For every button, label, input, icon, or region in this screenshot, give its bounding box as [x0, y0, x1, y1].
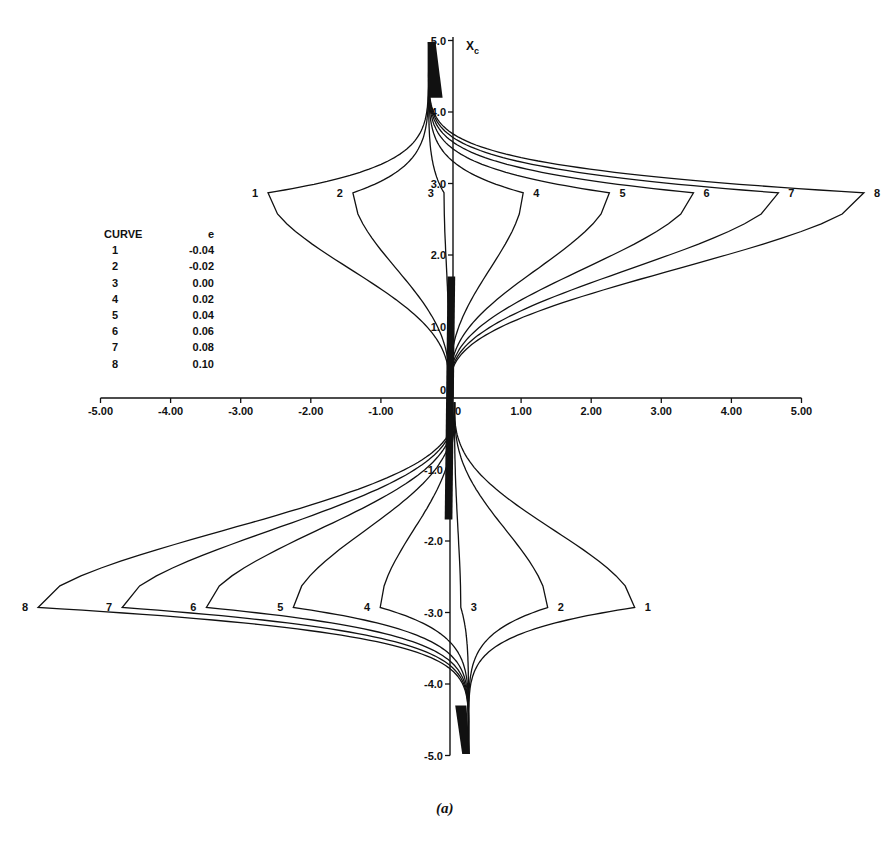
curve-label: 3	[471, 601, 477, 613]
x-tick-label: -2.00	[298, 405, 323, 417]
curve-label: 1	[645, 601, 651, 613]
legend-row: 50.04	[104, 307, 214, 323]
x-tick-label: -5.00	[88, 405, 113, 417]
legend-header-curve: CURVE	[104, 226, 176, 242]
legend-row: 80.10	[104, 356, 214, 372]
y-tick-label: -5.0	[424, 750, 443, 762]
curve-label: 5	[619, 187, 625, 199]
x-tick-label: 3.00	[651, 405, 672, 417]
curve-label: 6	[190, 601, 196, 613]
curve-label: 4	[533, 187, 540, 199]
curve-label: 4	[364, 601, 371, 613]
y-axis-title: Xc	[466, 39, 479, 56]
curve-5-upper	[429, 42, 610, 394]
x-tick-label: -4.00	[158, 405, 183, 417]
curve-6-upper	[429, 42, 694, 394]
curve-label: 5	[277, 601, 283, 613]
legend-header: CURVE e	[104, 226, 214, 242]
x-tick-label: 0	[455, 405, 461, 417]
x-tick-label: -3.00	[228, 405, 253, 417]
curve-8-upper	[429, 42, 864, 394]
curve-label: 7	[106, 601, 112, 613]
legend-row: 40.02	[104, 291, 214, 307]
curve-1-lower	[455, 402, 635, 754]
y-tick-label: 0	[440, 384, 446, 396]
curve-label: 1	[252, 187, 258, 199]
x-tick-label: 2.00	[580, 405, 601, 417]
legend-row: 60.06	[104, 323, 214, 339]
curve-7-lower	[122, 402, 468, 754]
y-tick-label: -2.0	[424, 535, 443, 547]
curve-5-lower	[293, 402, 468, 754]
curve-3-lower	[455, 402, 469, 754]
x-tick-label: 4.00	[721, 405, 742, 417]
y-tick-label: -4.0	[424, 678, 443, 690]
y-tick-label: -1.0	[424, 464, 443, 476]
curve-label: 2	[558, 601, 564, 613]
y-tick-label: -3.0	[424, 607, 443, 619]
x-tick-label: 5.00	[791, 405, 812, 417]
legend-header-e: e	[176, 226, 214, 242]
curve-7-upper	[429, 42, 779, 394]
curve-label: 2	[337, 187, 343, 199]
curve-1-upper	[268, 42, 450, 394]
legend: CURVE e 1-0.04 2-0.02 30.00 40.02 50.04 …	[104, 226, 214, 372]
center-convergence	[445, 276, 456, 519]
y-tick-label: 1.0	[431, 321, 446, 333]
curve-label: 7	[788, 187, 794, 199]
legend-row: 70.08	[104, 339, 214, 355]
x-tick-label: -1.00	[368, 405, 393, 417]
curve-label: 8	[22, 601, 28, 613]
curve-8-lower	[38, 402, 468, 754]
chart-plot: -5.00-4.00-3.00-2.00-1.0001.002.003.004.…	[0, 0, 894, 841]
upper-pole-wedge	[428, 42, 443, 98]
curve-label: 8	[874, 187, 880, 199]
legend-row: 1-0.04	[104, 242, 214, 258]
legend-row: 2-0.02	[104, 258, 214, 274]
curve-label: 3	[428, 187, 434, 199]
curve-label: 6	[704, 187, 710, 199]
legend-row: 30.00	[104, 275, 214, 291]
x-tick-label: 1.00	[510, 405, 531, 417]
figure-caption: (a)	[436, 800, 454, 817]
y-tick-label: 2.0	[431, 249, 446, 261]
